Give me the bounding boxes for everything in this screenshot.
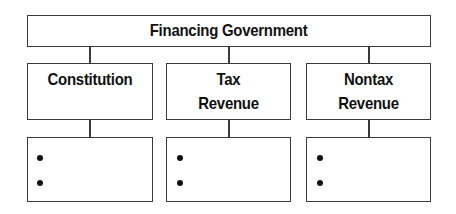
connector-root-tax-revenue	[228, 46, 230, 63]
bullet-icon	[37, 180, 43, 186]
bullet-icon	[177, 180, 183, 186]
bullet-icon	[317, 180, 323, 186]
bullet-icon	[177, 155, 183, 161]
connector-root-constitution	[89, 46, 91, 63]
category-box-nontax-revenue: Nontax Revenue	[306, 63, 431, 120]
connector-nontax-revenue-detail	[368, 119, 370, 137]
connector-constitution-detail	[89, 119, 91, 137]
category-title-line-1: Tax	[174, 70, 282, 90]
detail-box-constitution	[27, 137, 153, 202]
category-title-line-2: Revenue	[314, 94, 422, 114]
category-title-line-1: Nontax	[314, 70, 422, 90]
connector-tax-revenue-detail	[228, 119, 230, 137]
detail-box-tax-revenue	[166, 137, 291, 202]
category-title-line-1: Constitution	[35, 70, 144, 90]
root-title: Financing Government	[150, 21, 308, 41]
connector-root-nontax-revenue	[368, 46, 370, 63]
category-box-tax-revenue: Tax Revenue	[166, 63, 291, 120]
root-box-financing-government: Financing Government	[27, 15, 431, 47]
category-title-line-2: Revenue	[174, 94, 282, 114]
detail-box-nontax-revenue	[306, 137, 431, 202]
bullet-icon	[317, 155, 323, 161]
bullet-icon	[37, 155, 43, 161]
category-box-constitution: Constitution	[27, 63, 153, 120]
